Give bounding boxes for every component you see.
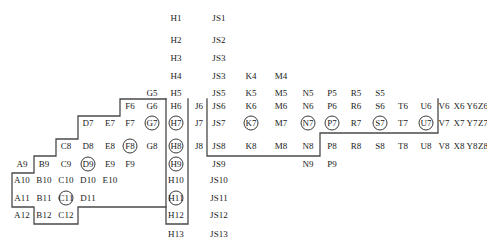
cell-label[interactable]: Z8 [478, 141, 487, 152]
cell-label[interactable]: N6 [302, 101, 313, 112]
cell-label[interactable]: G6 [146, 101, 157, 112]
cell-label[interactable]: V6 [438, 101, 449, 112]
cell-label[interactable]: Y8 [466, 141, 477, 152]
cell-label[interactable]: R5 [351, 88, 362, 99]
cell-label[interactable]: V8 [438, 141, 449, 152]
cell-label[interactable]: X7 [453, 118, 464, 129]
cell-label[interactable]: P9 [327, 159, 337, 170]
cell-label[interactable]: H5 [170, 88, 181, 99]
cell-label[interactable]: H8 [170, 141, 181, 152]
cell-label[interactable]: JS11 [210, 193, 228, 204]
cell-label[interactable]: C10 [58, 175, 73, 186]
cell-label[interactable]: R6 [351, 101, 362, 112]
cell-label[interactable]: M8 [275, 141, 288, 152]
cell-label[interactable]: A9 [16, 159, 27, 170]
cell-label[interactable]: D11 [80, 193, 95, 204]
cell-label[interactable]: R8 [351, 141, 362, 152]
cell-label[interactable]: B11 [37, 193, 52, 204]
cell-label[interactable]: R7 [351, 118, 362, 129]
cell-label[interactable]: N7 [302, 118, 313, 129]
cell-label[interactable]: JS7 [212, 118, 225, 129]
cell-label[interactable]: JS12 [210, 210, 228, 221]
cell-label[interactable]: E7 [105, 118, 115, 129]
cell-label[interactable]: J8 [195, 141, 203, 152]
cell-label[interactable]: F7 [125, 118, 135, 129]
cell-label[interactable]: U7 [420, 118, 431, 129]
cell-label[interactable]: B10 [36, 175, 51, 186]
cell-label[interactable]: H4 [170, 71, 181, 82]
cell-label[interactable]: E10 [103, 175, 118, 186]
cell-label[interactable]: H1 [170, 13, 181, 24]
cell-label[interactable]: H7 [170, 118, 181, 129]
cell-label[interactable]: C9 [61, 159, 72, 170]
cell-label[interactable]: N9 [302, 159, 313, 170]
cell-label[interactable]: F9 [125, 159, 135, 170]
cell-label[interactable]: T6 [398, 101, 408, 112]
cell-label[interactable]: K6 [245, 101, 256, 112]
cell-label[interactable]: K8 [245, 141, 256, 152]
cell-label[interactable]: JS13 [210, 229, 228, 240]
cell-label[interactable]: P8 [327, 141, 337, 152]
cell-label[interactable]: A11 [14, 193, 29, 204]
cell-label[interactable]: JS8 [212, 141, 225, 152]
cell-label[interactable]: S7 [375, 118, 385, 129]
cell-label[interactable]: H2 [170, 35, 181, 46]
cell-label[interactable]: H3 [170, 53, 181, 64]
cell-label[interactable]: U8 [420, 141, 431, 152]
cell-label[interactable]: X6 [453, 101, 464, 112]
cell-label[interactable]: E8 [105, 141, 115, 152]
cell-label[interactable]: H9 [170, 159, 181, 170]
cell-label[interactable]: E9 [105, 159, 115, 170]
cell-label[interactable]: T8 [398, 141, 408, 152]
cell-label[interactable]: JS3 [212, 71, 225, 82]
cell-label[interactable]: S6 [375, 101, 385, 112]
cell-label[interactable]: S5 [375, 88, 385, 99]
cell-label[interactable]: M4 [275, 71, 288, 82]
cell-label[interactable]: JS6 [212, 101, 225, 112]
cell-label[interactable]: A10 [14, 175, 30, 186]
cell-label[interactable]: J7 [195, 118, 203, 129]
cell-label[interactable]: B12 [36, 210, 51, 221]
cell-label[interactable]: H12 [168, 210, 184, 221]
cell-label[interactable]: Y6 [466, 101, 477, 112]
cell-label[interactable]: D7 [82, 118, 93, 129]
cell-label[interactable]: N5 [302, 88, 313, 99]
cell-label[interactable]: C8 [61, 141, 72, 152]
cell-label[interactable]: N8 [302, 141, 313, 152]
cell-label[interactable]: JS9 [212, 159, 225, 170]
cell-label[interactable]: K5 [245, 88, 256, 99]
cell-label[interactable]: X8 [453, 141, 464, 152]
cell-label[interactable]: C12 [58, 210, 73, 221]
cell-label[interactable]: U6 [420, 101, 431, 112]
cell-label[interactable]: G5 [146, 88, 157, 99]
cell-label[interactable]: M7 [275, 118, 288, 129]
cell-label[interactable]: K4 [245, 71, 256, 82]
cell-label[interactable]: JS1 [212, 13, 225, 24]
cell-label[interactable]: M6 [275, 101, 288, 112]
cell-label[interactable]: H13 [168, 229, 184, 240]
cell-label[interactable]: H11 [168, 193, 183, 204]
cell-label[interactable]: T7 [398, 118, 408, 129]
cell-label[interactable]: P6 [327, 101, 337, 112]
cell-label[interactable]: G8 [146, 141, 157, 152]
cell-label[interactable]: JS2 [212, 35, 225, 46]
cell-label[interactable]: F6 [125, 101, 135, 112]
cell-label[interactable]: V7 [438, 118, 449, 129]
cell-label[interactable]: P5 [327, 88, 337, 99]
cell-label[interactable]: J6 [195, 101, 203, 112]
cell-label[interactable]: C11 [59, 193, 74, 204]
cell-label[interactable]: B9 [39, 159, 50, 170]
cell-label[interactable]: D8 [82, 141, 93, 152]
cell-label[interactable]: H10 [168, 175, 184, 186]
cell-label[interactable]: P7 [327, 118, 337, 129]
cell-label[interactable]: Z6 [478, 101, 487, 112]
cell-label[interactable]: M5 [275, 88, 288, 99]
cell-label[interactable]: G7 [146, 118, 157, 129]
cell-label[interactable]: D10 [80, 175, 96, 186]
cell-label[interactable]: Z7 [478, 118, 487, 129]
cell-label[interactable]: JS3 [212, 53, 225, 64]
cell-label[interactable]: D9 [82, 159, 93, 170]
cell-label[interactable]: H6 [170, 101, 181, 112]
cell-label[interactable]: JS5 [212, 88, 225, 99]
cell-label[interactable]: F8 [125, 141, 135, 152]
